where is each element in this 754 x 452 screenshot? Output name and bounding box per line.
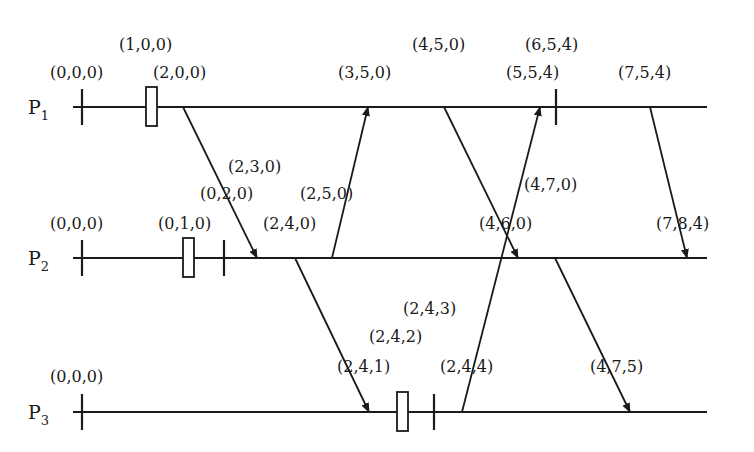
message-arrow xyxy=(295,258,369,412)
timestamp-label: (3,5,0) xyxy=(338,63,391,82)
timestamp-label: (1,0,0) xyxy=(119,35,172,54)
local-event-box xyxy=(397,392,408,431)
process-label: P3 xyxy=(28,401,49,428)
timestamp-label: (0,0,0) xyxy=(50,214,103,233)
timestamp-label: (2,3,0) xyxy=(228,157,281,176)
timestamp-label: (2,5,0) xyxy=(300,184,353,203)
timestamp-label: (4,6,0) xyxy=(479,214,532,233)
timestamp-label: (0,0,0) xyxy=(50,367,103,386)
local-event-box xyxy=(183,238,194,277)
timestamp-label: (0,0,0) xyxy=(50,63,103,82)
timestamp-label: (0,1,0) xyxy=(158,214,211,233)
process-labels: P1P2P3 xyxy=(28,96,49,428)
message-arrow xyxy=(650,107,687,258)
timestamp-label: (2,4,0) xyxy=(263,214,316,233)
message-arrow xyxy=(332,107,368,258)
timestamp-label: (2,4,3) xyxy=(403,299,456,318)
timestamp-label: (2,0,0) xyxy=(153,63,206,82)
event-ticks xyxy=(82,89,556,430)
timestamp-label: (0,2,0) xyxy=(200,184,253,203)
timestamp-label: (7,5,4) xyxy=(618,63,671,82)
timestamp-label: (2,4,1) xyxy=(337,357,390,376)
timestamp-label: (5,5,4) xyxy=(506,63,559,82)
vector-clock-diagram: P1P2P3 (1,0,0)(0,0,0)(2,0,0)(3,5,0)(4,5,… xyxy=(0,0,754,452)
timestamp-label: (4,7,0) xyxy=(524,175,577,194)
local-event-box xyxy=(146,87,157,126)
timestamp-label: (7,8,4) xyxy=(656,214,709,233)
timestamp-label: (4,7,5) xyxy=(590,357,643,376)
process-label: P2 xyxy=(28,247,49,274)
timestamp-label: (2,4,2) xyxy=(369,327,422,346)
process-label: P1 xyxy=(28,96,49,123)
message-arrow xyxy=(555,258,630,412)
timestamp-label: (4,5,0) xyxy=(412,35,465,54)
message-arrow xyxy=(183,107,257,258)
timestamp-label: (6,5,4) xyxy=(525,35,578,54)
timestamp-label: (2,4,4) xyxy=(440,357,493,376)
